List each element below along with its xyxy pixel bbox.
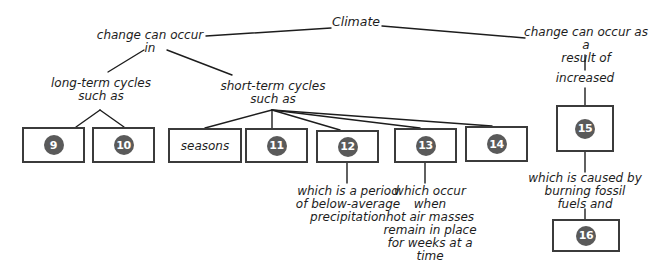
label-long-term-cycles-such-as: long-term cycles such as xyxy=(40,77,162,103)
blank-number-9: 9 xyxy=(44,135,64,155)
blank-number-15: 15 xyxy=(575,119,595,139)
blank-number-11: 11 xyxy=(267,136,287,156)
label-change-can-occur-in: change can occur in xyxy=(90,29,210,55)
edge-climate-to-left xyxy=(206,28,331,36)
box-12[interactable]: 12 xyxy=(316,130,379,163)
box-11[interactable]: 11 xyxy=(245,128,308,163)
label-which-occur-when: which occur when hot air masses remain i… xyxy=(380,185,480,263)
box-10[interactable]: 10 xyxy=(92,127,155,163)
edge-longterm-to-box10 xyxy=(100,110,124,127)
box-9[interactable]: 9 xyxy=(22,127,85,163)
blank-number-13: 13 xyxy=(416,136,436,156)
blank-number-12: 12 xyxy=(338,137,358,157)
blank-number-16: 16 xyxy=(576,226,596,246)
label-short-term-cycles-such-as: short-term cycles such as xyxy=(212,80,334,106)
box-seasons-label: seasons xyxy=(181,139,229,153)
edge-climate-to-right xyxy=(382,26,525,38)
blank-number-14: 14 xyxy=(487,134,507,154)
box-14[interactable]: 14 xyxy=(465,126,528,162)
concept-map-diagram: Climate change can occur in change can o… xyxy=(0,0,663,263)
page-title: Climate xyxy=(325,15,387,28)
edge-shortterm-to-seasons xyxy=(205,110,272,128)
blank-number-10: 10 xyxy=(114,135,134,155)
box-15[interactable]: 15 xyxy=(556,105,614,152)
label-which-is-caused-by: which is caused by burning fossil fuels … xyxy=(523,172,647,211)
label-increased: increased xyxy=(545,72,625,85)
box-seasons[interactable]: seasons xyxy=(168,128,242,163)
box-16[interactable]: 16 xyxy=(552,219,620,252)
edge-longterm-to-box9 xyxy=(76,110,100,127)
label-change-can-occur-as-a-result-of: change can occur as a result of xyxy=(521,26,651,65)
box-13[interactable]: 13 xyxy=(394,128,457,163)
